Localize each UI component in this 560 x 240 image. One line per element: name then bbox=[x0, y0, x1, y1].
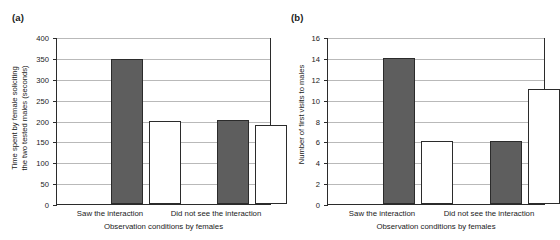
y-tick bbox=[53, 59, 57, 60]
y-tick-label: 250 bbox=[0, 97, 49, 106]
panel-a-category-label-1: Did not see the interaction bbox=[171, 209, 262, 218]
y-tick bbox=[53, 122, 57, 123]
y-tick-label: 400 bbox=[0, 34, 49, 43]
y-tick-label: 300 bbox=[0, 76, 49, 85]
y-tick-label: 350 bbox=[0, 55, 49, 64]
y-tick-label: 0 bbox=[279, 201, 320, 210]
y-tick bbox=[324, 142, 328, 143]
y-tick-label: 100 bbox=[0, 159, 49, 168]
panel-a-plot-area bbox=[56, 38, 271, 205]
panel-b: (b) Number of first visits to males 0246… bbox=[279, 0, 559, 240]
y-tick bbox=[53, 184, 57, 185]
gridline bbox=[328, 80, 544, 81]
y-tick-label: 8 bbox=[279, 118, 320, 127]
y-tick-label: 16 bbox=[279, 34, 320, 43]
y-tick-label: 10 bbox=[279, 97, 320, 106]
y-tick-label: 50 bbox=[0, 180, 49, 189]
gridline bbox=[328, 122, 544, 123]
bar bbox=[149, 121, 181, 204]
bar bbox=[528, 89, 560, 204]
gridline bbox=[57, 38, 270, 39]
gridline bbox=[328, 59, 544, 60]
panel-b-category-label-1: Did not see the interaction bbox=[444, 209, 535, 218]
bar bbox=[383, 58, 415, 204]
y-tick bbox=[324, 101, 328, 102]
y-tick-label: 0 bbox=[0, 201, 49, 210]
y-tick bbox=[324, 38, 328, 39]
y-tick bbox=[324, 205, 328, 206]
panel-b-plot-area bbox=[327, 38, 545, 205]
panel-a-label: (a) bbox=[12, 12, 24, 23]
bar bbox=[421, 141, 453, 204]
y-tick bbox=[324, 122, 328, 123]
y-tick-label: 14 bbox=[279, 55, 320, 64]
bar bbox=[217, 120, 249, 204]
panel-a-category-label-0: Saw the interaction bbox=[77, 209, 143, 218]
y-tick-label: 4 bbox=[279, 159, 320, 168]
gridline bbox=[328, 38, 544, 39]
bar bbox=[490, 141, 522, 204]
panel-a-x-axis-title: Observation conditions by females bbox=[56, 222, 271, 231]
y-tick bbox=[324, 59, 328, 60]
y-tick bbox=[53, 101, 57, 102]
y-tick bbox=[324, 184, 328, 185]
y-tick bbox=[324, 163, 328, 164]
y-tick-label: 200 bbox=[0, 118, 49, 127]
gridline bbox=[57, 101, 270, 102]
y-tick bbox=[53, 163, 57, 164]
panel-b-label: (b) bbox=[291, 12, 304, 23]
panel-b-x-axis-title: Observation conditions by females bbox=[327, 222, 545, 231]
gridline bbox=[328, 101, 544, 102]
y-tick-label: 6 bbox=[279, 138, 320, 147]
y-tick-label: 12 bbox=[279, 76, 320, 85]
bar bbox=[111, 59, 143, 204]
panel-b-category-label-0: Saw the interaction bbox=[349, 209, 415, 218]
gridline bbox=[57, 80, 270, 81]
y-tick bbox=[53, 205, 57, 206]
y-tick-label: 2 bbox=[279, 180, 320, 189]
panel-a: (a) Time spent by female soliciting the … bbox=[0, 0, 279, 240]
y-tick bbox=[53, 38, 57, 39]
y-tick bbox=[53, 80, 57, 81]
gridline bbox=[57, 59, 270, 60]
y-tick-label: 150 bbox=[0, 138, 49, 147]
y-tick bbox=[324, 80, 328, 81]
y-tick bbox=[53, 142, 57, 143]
